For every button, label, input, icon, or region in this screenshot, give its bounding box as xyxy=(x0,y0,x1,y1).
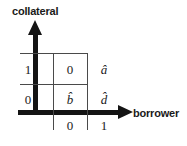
x-axis-tick-label-0: 0 xyxy=(53,119,87,132)
matrix-cell-top-left: 0 xyxy=(53,63,87,76)
matrix-diagram: collateral borrower 1 0 0 â b̂ d̂ 0 1 xyxy=(0,0,187,146)
matrix-cell-bottom-right: d̂ xyxy=(87,93,121,106)
grid-line-top xyxy=(20,53,88,54)
row-label-bottom: 0 xyxy=(18,93,38,106)
row-label-top: 1 xyxy=(18,63,38,76)
arrow-up-icon xyxy=(28,20,42,35)
x-axis-label: borrower xyxy=(133,107,179,119)
matrix-cell-bottom-left: b̂ xyxy=(53,93,87,106)
y-axis-label: collateral xyxy=(12,5,58,17)
x-axis-tick-label-1: 1 xyxy=(87,119,121,132)
matrix-cell-top-right: â xyxy=(87,63,121,76)
x-axis-line xyxy=(18,110,121,115)
grid-line-middle xyxy=(20,84,88,85)
arrow-right-icon xyxy=(118,105,133,119)
